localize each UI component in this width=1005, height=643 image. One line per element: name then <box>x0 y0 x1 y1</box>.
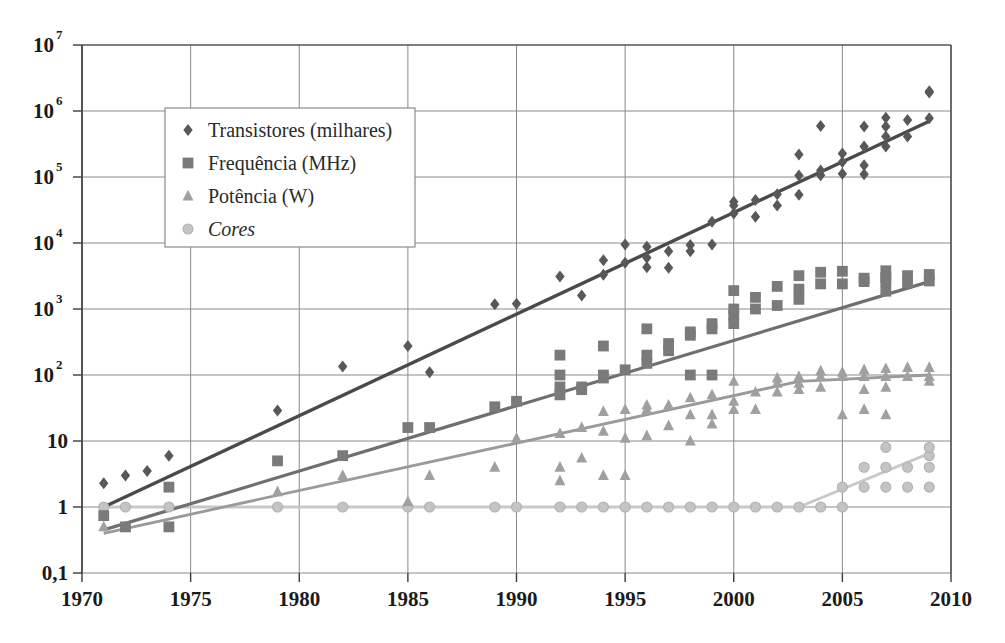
data-point-diamond <box>620 238 629 250</box>
data-point-circle <box>664 502 674 512</box>
data-point-circle <box>772 502 782 512</box>
data-point-diamond <box>425 366 434 378</box>
legend-item[interactable]: Transistores (milhares) <box>183 119 392 142</box>
data-point-circle <box>273 502 283 512</box>
y-axis-tick-label: 1 <box>58 495 69 519</box>
data-point-triangle <box>728 375 739 386</box>
data-point-triangle <box>685 435 696 446</box>
data-point-triangle <box>576 452 587 463</box>
data-point-square <box>815 279 826 290</box>
data-point-triangle <box>598 405 609 416</box>
data-point-square <box>859 276 870 287</box>
data-point-square <box>98 510 109 521</box>
data-point-square <box>794 284 805 295</box>
y-axis-tick-base: 10 <box>33 231 54 255</box>
data-point-triangle <box>272 486 283 497</box>
data-point-circle <box>750 502 760 512</box>
data-point-square <box>772 300 783 311</box>
data-point-triangle <box>685 409 696 420</box>
data-point-square <box>815 267 826 278</box>
legend-label: Potência (W) <box>208 185 314 208</box>
y-axis-tick-base: 10 <box>33 297 54 321</box>
data-point-circle <box>837 482 847 492</box>
data-point-square <box>750 292 761 303</box>
data-point-diamond <box>794 148 803 160</box>
y-axis-tick-base: 10 <box>33 363 54 387</box>
legend-label: Frequência (MHz) <box>208 152 356 175</box>
data-point-triangle <box>337 469 348 480</box>
data-point-triangle <box>424 469 435 480</box>
y-axis-tick-base: 0,1 <box>42 561 68 585</box>
data-point-triangle <box>880 381 891 392</box>
legend-item[interactable]: Frequência (MHz) <box>183 152 357 175</box>
data-point-triangle <box>859 403 870 414</box>
y-axis-tick-label: 10 <box>47 429 68 453</box>
data-point-diamond <box>773 199 782 211</box>
data-point-diamond <box>859 121 868 133</box>
y-axis-tick-base: 10 <box>47 429 68 453</box>
chart-root: 1071061051041031021010,11970197519801985… <box>0 0 1005 643</box>
data-point-square <box>641 323 652 334</box>
data-point-circle <box>685 502 695 512</box>
data-point-square <box>728 318 739 329</box>
data-point-triangle <box>707 409 718 420</box>
data-point-diamond <box>164 450 173 462</box>
data-point-triangle <box>663 420 674 431</box>
data-point-square <box>772 281 783 292</box>
data-point-diamond <box>599 254 608 266</box>
data-point-triangle <box>707 418 718 429</box>
y-axis-tick-exponent: 4 <box>56 225 63 240</box>
data-point-circle <box>924 442 934 452</box>
legend-label: Cores <box>208 218 255 240</box>
data-point-triangle <box>620 432 631 443</box>
data-point-triangle <box>620 469 631 480</box>
data-point-diamond <box>859 168 868 180</box>
data-point-diamond <box>403 340 412 352</box>
data-point-circle <box>120 502 130 512</box>
data-point-triangle <box>663 399 674 410</box>
data-point-square <box>272 455 283 466</box>
data-point-diamond <box>925 85 934 97</box>
data-point-circle <box>924 482 934 492</box>
data-point-diamond <box>142 465 151 477</box>
x-axis-tick-label: 1990 <box>496 587 538 611</box>
data-point-triangle <box>750 403 761 414</box>
data-point-diamond <box>707 238 716 250</box>
y-axis-tick-exponent: 7 <box>56 27 63 42</box>
data-point-circle <box>881 442 891 452</box>
data-point-square <box>555 350 566 361</box>
data-point-square <box>728 285 739 296</box>
data-point-triangle <box>620 403 631 414</box>
data-point-circle <box>642 502 652 512</box>
data-point-triangle <box>707 389 718 400</box>
y-axis-tick-base: 10 <box>33 99 54 123</box>
y-axis-tick-label: 105 <box>33 159 63 189</box>
data-point-triangle <box>685 392 696 403</box>
data-point-diamond <box>664 245 673 257</box>
legend-label: Transistores (milhares) <box>208 119 392 142</box>
data-point-triangle <box>880 409 891 420</box>
data-point-diamond <box>816 120 825 132</box>
data-point-diamond <box>664 262 673 274</box>
data-point-circle <box>577 502 587 512</box>
data-point-square <box>794 294 805 305</box>
x-axis-tick-label: 1980 <box>278 587 320 611</box>
data-point-circle <box>490 502 500 512</box>
data-point-square <box>880 276 891 287</box>
data-point-diamond <box>751 211 760 223</box>
x-axis-tick-label: 1970 <box>61 587 103 611</box>
data-point-diamond <box>794 189 803 201</box>
data-point-square <box>880 286 891 297</box>
data-point-circle <box>881 482 891 492</box>
data-point-diamond <box>577 290 586 302</box>
data-point-triangle <box>98 521 109 532</box>
data-point-circle <box>859 482 869 492</box>
y-axis-tick-exponent: 3 <box>56 291 63 306</box>
y-axis-tick-label: 107 <box>33 27 63 57</box>
data-point-square <box>663 345 674 356</box>
data-point-triangle <box>815 381 826 392</box>
data-point-square <box>511 396 522 407</box>
x-axis-tick-label: 1975 <box>170 587 212 611</box>
data-point-circle <box>837 502 847 512</box>
data-point-square <box>598 341 609 352</box>
